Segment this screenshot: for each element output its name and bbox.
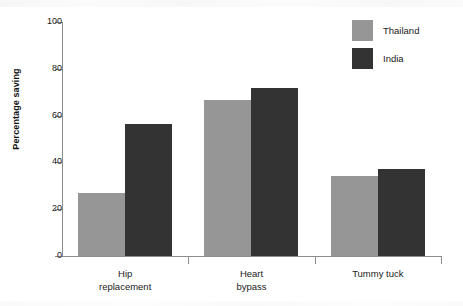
y-axis-tick: 40 [0, 162, 62, 163]
x-axis-category-label-line: replacement [62, 281, 188, 294]
bar-india-heart-bypass [251, 88, 298, 256]
legend-swatch-india-icon [352, 48, 373, 69]
y-axis-tick: 80 [0, 69, 62, 70]
bar-chart: 020406080100 Percentage saving Hipreplac… [0, 0, 463, 306]
x-axis-category-label-line: Hip [62, 268, 188, 281]
bar-thailand-heart-bypass [204, 100, 251, 256]
y-axis-tick: 0 [0, 256, 62, 257]
y-axis-tick: 100 [0, 22, 62, 23]
legend-label-thailand: Thailand [383, 25, 419, 36]
x-axis-line [62, 256, 441, 257]
scan-artifact-top [0, 0, 463, 7]
scan-artifact-bottom [0, 301, 463, 306]
y-axis-tick-label: 40 [36, 157, 62, 166]
x-axis-separator-tick [315, 256, 316, 264]
y-axis-tick-label: 80 [36, 64, 62, 73]
x-axis-category-label: Hipreplacement [62, 268, 188, 293]
x-axis-category-label-line: Tummy tuck [315, 268, 441, 281]
y-axis-title: Percentage saving [11, 49, 21, 169]
bar-india-hip-replacement [125, 124, 172, 256]
y-axis-tick-label: 0 [36, 251, 62, 260]
y-axis-line [62, 22, 63, 256]
bar-thailand-tummy-tuck [331, 176, 378, 256]
legend-label-india: India [383, 53, 404, 64]
x-axis-category-label: Heartbypass [188, 268, 314, 293]
y-axis-tick-label: 20 [36, 204, 62, 213]
y-axis-tick-label: 100 [36, 17, 62, 26]
y-axis-tick: 60 [0, 116, 62, 117]
x-axis-category-label-line: bypass [188, 281, 314, 294]
x-axis-category-label-line: Heart [188, 268, 314, 281]
bar-india-tummy-tuck [378, 169, 425, 256]
y-axis-tick-label: 60 [36, 111, 62, 120]
bar-thailand-hip-replacement [78, 193, 125, 256]
x-axis-separator-tick [441, 256, 442, 264]
x-axis-category-label: Tummy tuck [315, 268, 441, 281]
legend-swatch-thailand-icon [352, 20, 373, 41]
x-axis-separator-tick [188, 256, 189, 264]
y-axis-tick: 20 [0, 209, 62, 210]
